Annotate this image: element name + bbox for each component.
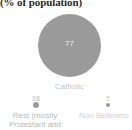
bubble-rest[interactable] [33,102,39,108]
bubble-nonbelievers-label: Non Believers [76,111,132,120]
bubble-catholic-value: 77 [38,39,101,48]
bubble-rest-label-line2: Protestant and [0,120,70,129]
bubble-rest-label: Rest (mostly Protestant and [0,111,70,129]
bubble-catholic-label: Catholic [38,82,101,91]
bubble-nonbelievers[interactable] [106,103,110,107]
bubble-nonbelievers-value: 5 [97,95,119,103]
bubble-chart: (% of population) 77 Catholic 18 Rest (m… [0,0,132,130]
chart-title: (% of population) [0,0,132,8]
bubble-rest-label-line1: Rest (mostly [0,111,70,120]
